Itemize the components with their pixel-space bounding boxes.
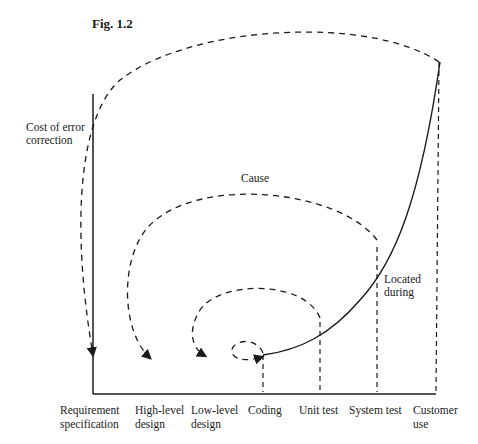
arc-unit-to-lowlevel — [192, 288, 320, 356]
arc-customer-to-requirement — [81, 32, 439, 355]
drop-line-customer-use — [436, 62, 439, 392]
arc-system-to-highlevel — [128, 194, 378, 358]
cost-diagram — [0, 0, 478, 444]
phase-customer-use: Customeruse — [413, 403, 458, 431]
phase-high-level-design: High-leveldesign — [135, 403, 184, 431]
phase-requirement: Requirementspecification — [60, 403, 119, 431]
phase-coding: Coding — [248, 403, 282, 417]
cost-curve — [263, 62, 440, 355]
phase-low-level-design: Low-leveldesign — [191, 403, 238, 431]
phase-system-test: System test — [349, 403, 402, 417]
arc-coding-self — [232, 341, 263, 359]
phase-unit-test: Unit test — [299, 403, 338, 417]
